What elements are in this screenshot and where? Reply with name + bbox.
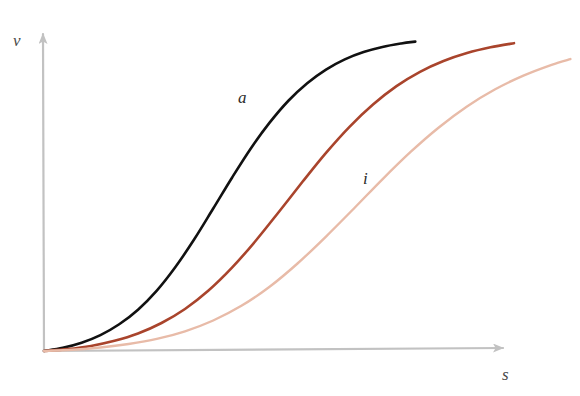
chart-figure: v s a i: [0, 0, 580, 396]
curve-label-a: a: [238, 89, 247, 106]
curve-a: [44, 42, 415, 351]
data-series-group: [44, 42, 570, 351]
chart-canvas: [0, 0, 580, 396]
y-axis-line: [43, 34, 44, 351]
curve-i: [44, 59, 570, 351]
curve-label-i: i: [363, 170, 368, 187]
curve-mid: [44, 43, 514, 351]
x-axis-label: s: [502, 366, 509, 383]
x-axis-line: [44, 348, 503, 351]
axes-group: [43, 34, 503, 351]
y-axis-label: v: [13, 32, 21, 49]
